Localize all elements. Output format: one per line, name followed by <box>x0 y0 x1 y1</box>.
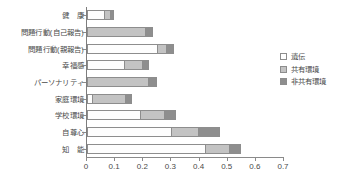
stacked-bar <box>87 144 241 154</box>
x-axis-tick-mark <box>199 157 200 161</box>
x-axis-tick-label: 0.2 <box>137 162 148 172</box>
legend-label-nonshared-environment: 非共有環境 <box>291 77 326 86</box>
x-axis-tick-mark <box>255 157 256 161</box>
bar-segment-shared-environment <box>171 127 198 137</box>
x-axis-tick-label: 0 <box>84 162 88 172</box>
y-axis-tick <box>82 82 86 83</box>
bar-segment-shared-environment <box>87 27 145 37</box>
legend-item-shared-environment: 共有環境 <box>280 64 342 75</box>
x-axis-tick-mark <box>283 157 284 161</box>
category-label: 知 能 <box>62 144 84 153</box>
bar-segment-nonshared-environment <box>148 77 157 87</box>
stacked-bar <box>87 27 153 37</box>
category-label: 自尊心 <box>62 127 84 136</box>
y-axis-tick <box>82 49 86 50</box>
stacked-bar-chart: 健 康問題行動(自己報告)問題行動(親報告)幸福感パーソナリティ家庭環境学校環境… <box>0 0 343 181</box>
chart-row: 問題行動(自己報告) <box>0 24 343 41</box>
stacked-bar <box>87 110 176 120</box>
bar-segment-genetic <box>87 110 140 120</box>
x-axis-tick-mark <box>170 157 171 161</box>
legend-swatch-genetic-icon <box>280 53 287 60</box>
bar-segment-nonshared-environment <box>198 127 220 137</box>
bar-segment-genetic <box>87 144 205 154</box>
bar-segment-shared-environment <box>87 77 148 87</box>
bar-segment-shared-environment <box>157 44 165 54</box>
x-axis-tick-mark <box>142 157 143 161</box>
x-axis-tick-label: 0.6 <box>249 162 260 172</box>
x-axis-tick-label: 0.5 <box>221 162 232 172</box>
x-axis-ticks: 00.10.20.30.40.50.60.7 <box>86 157 284 177</box>
y-axis-tick <box>82 15 86 16</box>
category-label: 家庭環境 <box>55 94 84 103</box>
bar-segment-nonshared-environment <box>125 94 132 104</box>
chart-row: 自尊心 <box>0 124 343 141</box>
category-label: 問題行動(親報告) <box>28 44 84 53</box>
bar-segment-nonshared-environment <box>229 144 241 154</box>
y-axis-tick <box>82 115 86 116</box>
chart-row: 知 能 <box>0 140 343 157</box>
legend-label-genetic: 遺伝 <box>291 52 305 61</box>
y-axis-tick <box>82 32 86 33</box>
stacked-bar <box>87 10 114 20</box>
stacked-bar <box>87 77 157 87</box>
x-axis-tick-mark <box>114 157 115 161</box>
y-axis-tick <box>82 132 86 133</box>
stacked-bar <box>87 44 174 54</box>
stacked-bar <box>87 94 132 104</box>
chart-row: 学校環境 <box>0 107 343 124</box>
bar-segment-shared-environment <box>205 144 229 154</box>
x-axis-tick-mark <box>86 157 87 161</box>
bar-segment-shared-environment <box>124 60 142 70</box>
legend-label-shared-environment: 共有環境 <box>291 65 319 74</box>
x-axis-tick-mark <box>227 157 228 161</box>
x-axis-tick-label: 0.3 <box>165 162 176 172</box>
legend-item-genetic: 遺伝 <box>280 51 342 62</box>
y-axis-tick <box>82 149 86 150</box>
category-label: 問題行動(自己報告) <box>21 27 84 36</box>
chart-legend: 遺伝 共有環境 非共有環境 <box>280 51 342 89</box>
bar-segment-nonshared-environment <box>145 27 153 37</box>
bar-segment-genetic <box>87 44 157 54</box>
category-label: パーソナリティ <box>34 77 84 86</box>
category-label: 学校環境 <box>55 111 84 120</box>
bar-segment-nonshared-environment <box>110 10 114 20</box>
bar-segment-shared-environment <box>140 110 164 120</box>
bar-segment-nonshared-environment <box>142 60 149 70</box>
bar-segment-nonshared-environment <box>166 44 174 54</box>
chart-row: 家庭環境 <box>0 90 343 107</box>
legend-swatch-nonshared-environment-icon <box>280 78 287 85</box>
bar-segment-nonshared-environment <box>164 110 176 120</box>
legend-item-nonshared-environment: 非共有環境 <box>280 76 342 87</box>
bar-segment-genetic <box>87 60 124 70</box>
stacked-bar <box>87 127 220 137</box>
y-axis-tick <box>82 99 86 100</box>
bar-segment-genetic <box>87 10 104 20</box>
y-axis-tick <box>82 65 86 66</box>
x-axis-tick-label: 0.7 <box>277 162 288 172</box>
category-label: 健 康 <box>62 11 84 20</box>
chart-row: 健 康 <box>0 7 343 24</box>
bar-segment-shared-environment <box>92 94 125 104</box>
stacked-bar <box>87 60 149 70</box>
bar-segment-genetic <box>87 127 171 137</box>
x-axis-tick-label: 0.4 <box>193 162 204 172</box>
legend-swatch-shared-environment-icon <box>280 66 287 73</box>
category-label: 幸福感 <box>62 61 84 70</box>
x-axis-tick-label: 0.1 <box>109 162 120 172</box>
